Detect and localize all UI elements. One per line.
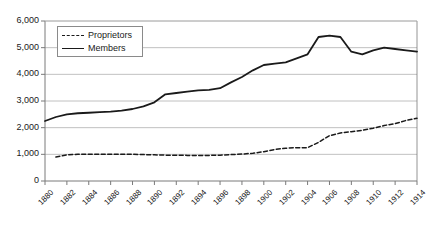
y-axis-tick-label: 4,000 bbox=[16, 68, 39, 78]
legend-swatch-solid-icon bbox=[62, 45, 84, 53]
y-axis-tick-label: 0 bbox=[34, 175, 39, 185]
y-axis-tick-label: 6,000 bbox=[16, 15, 39, 25]
legend-label-members: Members bbox=[88, 44, 126, 53]
y-axis-tick-label: 2,000 bbox=[16, 122, 39, 132]
legend-swatch-dashed-icon bbox=[62, 32, 84, 40]
y-axis-tick-label: 1,000 bbox=[16, 148, 39, 158]
legend-item-members: Members bbox=[62, 42, 126, 55]
line-chart: 01,0002,0003,0004,0005,0006,000 18801882… bbox=[0, 0, 431, 238]
y-axis-tick-label: 3,000 bbox=[16, 95, 39, 105]
legend-label-proprietors: Proprietors bbox=[88, 31, 132, 40]
legend-item-proprietors: Proprietors bbox=[62, 29, 132, 42]
chart-legend: Proprietors Members bbox=[57, 26, 143, 57]
y-axis-tick-label: 5,000 bbox=[16, 42, 39, 52]
